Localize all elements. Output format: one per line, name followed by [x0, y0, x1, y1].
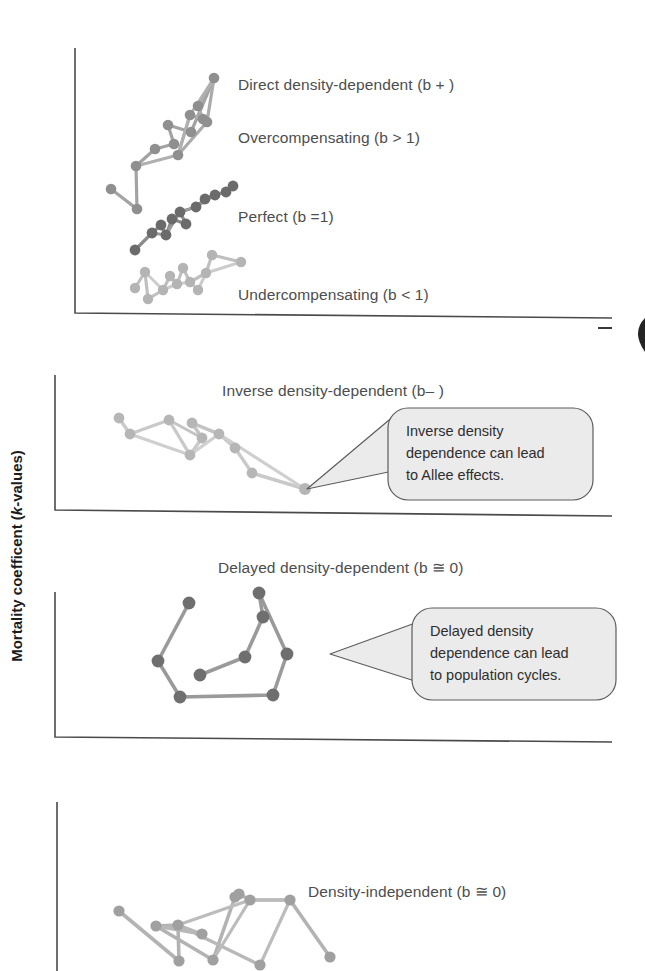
series-perfect: [130, 181, 239, 256]
callout-allee-line-3: to Allee effects.: [406, 467, 504, 483]
callout-allee-line-1: Inverse density: [406, 423, 504, 439]
series-undercompensating: [130, 250, 246, 304]
label-density-independent: Density-independent (b ≅ 0): [308, 883, 506, 900]
label-inverse-density-dependent: Inverse density-dependent (b– ): [222, 382, 444, 399]
label-perfect: Perfect (b =1): [238, 208, 334, 225]
panel-inverse: Inverse density-dependent (b– ) Inverse …: [55, 375, 612, 516]
density-dependence-figure: Mortality coefficent (k-values): [0, 0, 645, 971]
series-inverse-density: [114, 413, 311, 495]
series-density-independent: [113, 888, 335, 970]
callout-population-cycles: Delayed density dependence can lead to p…: [330, 608, 616, 700]
series-delayed-cycle: [152, 587, 294, 704]
y-axis-label-text-a: Mortality coefficent (: [8, 515, 25, 662]
y-axis-label-text-b: -values): [8, 450, 25, 507]
svg-text:Mortality coefficent (k-values: Mortality coefficent (k-values): [8, 450, 25, 662]
panel-independent: Density-independent (b ≅ 0): [57, 802, 506, 971]
figure-canvas: Mortality coefficent (k-values): [0, 0, 645, 971]
panel-delayed: Delayed density-dependent (b ≅ 0) Delaye…: [55, 559, 616, 742]
callout-allee-effects: Inverse density dependence can lead to A…: [307, 408, 593, 500]
callout-cycles-line-3: to population cycles.: [430, 667, 561, 683]
page-edge-mark: [598, 318, 645, 352]
series-overcompensating: [106, 73, 220, 215]
callout-cycles-line-2: dependence can lead: [430, 645, 569, 661]
y-axis-label: Mortality coefficent (k-values): [8, 450, 25, 662]
label-undercompensating: Undercompensating (b < 1): [238, 286, 429, 303]
label-delayed-density-dependent: Delayed density-dependent (b ≅ 0): [218, 559, 464, 576]
callout-allee-line-2: dependence can lead: [406, 445, 545, 461]
label-direct-density-dependent: Direct density-dependent (b + ): [238, 76, 454, 93]
panel-direct: Direct density-dependent (b + ) Overcomp…: [75, 48, 612, 318]
label-overcompensating: Overcompensating (b > 1): [238, 129, 420, 146]
callout-cycles-line-1: Delayed density: [430, 623, 534, 639]
